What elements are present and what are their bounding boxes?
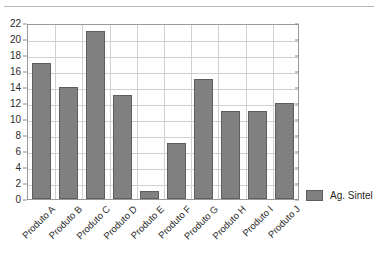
y-axis: 0246810121416182022: [0, 24, 24, 200]
bar: [221, 111, 240, 199]
bar-slot: [190, 25, 217, 199]
bar-slot: [163, 25, 190, 199]
y-tick-mark-right: [295, 184, 299, 185]
y-tick-mark-right: [295, 152, 299, 153]
y-tick-label: 20: [10, 35, 21, 45]
y-tick-label: 10: [10, 115, 21, 125]
y-tick-mark-right: [295, 72, 299, 73]
bar: [248, 111, 267, 199]
y-tick-mark-right: [295, 200, 299, 201]
chart-legend: Ag. Sintel: [306, 190, 373, 201]
y-tick-label: 8: [15, 131, 21, 141]
y-tick-label: 0: [15, 195, 21, 205]
y-tick-mark: [23, 120, 27, 121]
y-tick-label: 18: [10, 51, 21, 61]
y-tick-mark-right: [295, 88, 299, 89]
bar-slot: [271, 25, 298, 199]
y-tick-mark-right: [295, 120, 299, 121]
bar-slot: [136, 25, 163, 199]
y-tick-mark: [23, 24, 27, 25]
bar: [275, 103, 294, 199]
x-axis: Produto AProduto BProduto CProduto DProd…: [27, 202, 299, 262]
bar-slot: [82, 25, 109, 199]
y-tick-mark-right: [295, 24, 299, 25]
bar-slot: [109, 25, 136, 199]
legend-label-ag-sintel: Ag. Sintel: [330, 190, 373, 201]
y-tick-label: 14: [10, 83, 21, 93]
top-divider: [4, 6, 374, 7]
y-tick-label: 12: [10, 99, 21, 109]
bar-slot: [28, 25, 55, 199]
y-tick-label: 4: [15, 163, 21, 173]
y-tick-mark-right: [295, 56, 299, 57]
legend-swatch-ag-sintel: [306, 190, 323, 201]
y-tick-mark-right: [295, 168, 299, 169]
y-tick-mark: [23, 40, 27, 41]
bar-slot: [217, 25, 244, 199]
y-tick-label: 2: [15, 179, 21, 189]
y-tick-mark-right: [295, 40, 299, 41]
y-tick-mark: [23, 72, 27, 73]
bar: [86, 31, 105, 199]
y-tick-mark: [23, 152, 27, 153]
y-tick-mark: [23, 200, 27, 201]
bar: [59, 87, 78, 199]
bar-series-ag-sintel: [28, 25, 298, 199]
bar-slot: [55, 25, 82, 199]
y-tick-label: 6: [15, 147, 21, 157]
bar: [194, 79, 213, 199]
y-tick-mark: [23, 136, 27, 137]
y-tick-mark: [23, 88, 27, 89]
plot-area: [27, 24, 299, 200]
y-tick-mark: [23, 56, 27, 57]
y-tick-mark: [23, 184, 27, 185]
y-tick-label: 22: [10, 19, 21, 29]
y-tick-label: 16: [10, 67, 21, 77]
y-tick-mark-right: [295, 136, 299, 137]
bar: [167, 143, 186, 199]
bar-chart: 0246810121416182022 Produto AProduto BPr…: [0, 0, 378, 268]
bar: [140, 191, 159, 199]
bar-slot: [244, 25, 271, 199]
bar: [113, 95, 132, 199]
y-tick-mark-right: [295, 104, 299, 105]
y-tick-mark: [23, 104, 27, 105]
bar: [32, 63, 51, 199]
y-tick-mark: [23, 168, 27, 169]
